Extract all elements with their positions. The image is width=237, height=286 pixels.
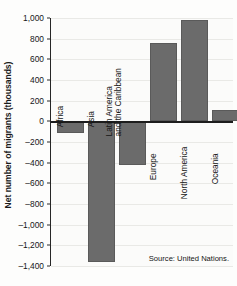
gridline-1000 xyxy=(51,18,233,19)
zero-baseline xyxy=(51,121,233,123)
category-label-europe: Europe xyxy=(149,153,158,180)
gridline-minus-1400 xyxy=(51,266,233,267)
y-tick-200: 200 xyxy=(30,96,44,106)
migration-bar-chart: Net number of migrants (thousands) 1,000… xyxy=(0,0,237,286)
y-tick-minus-800: –800 xyxy=(25,199,44,209)
category-label-north-america: North America xyxy=(180,147,189,200)
y-tick-400: 400 xyxy=(30,75,44,85)
bar-asia xyxy=(88,121,115,262)
category-label-asia: Asia xyxy=(87,111,96,127)
category-label-latin-america-and-the-caribbean: Latin America and the Caribbean xyxy=(105,62,123,136)
gridline-minus-800 xyxy=(51,204,233,205)
y-tick-0: 0 xyxy=(39,116,44,126)
y-axis-tick-labels: 1,000 800 600 400 200 0 –200 –400 –600 –… xyxy=(14,0,47,286)
gridline-minus-600 xyxy=(51,183,233,184)
y-tick-600: 600 xyxy=(30,54,44,64)
bar-north-america xyxy=(181,20,208,121)
y-tick-minus-400: –400 xyxy=(25,158,44,168)
y-axis-title-text: Net number of migrants (thousands) xyxy=(3,62,13,209)
y-tick-minus-200: –200 xyxy=(25,137,44,147)
y-tick-minus-1400: –1,400 xyxy=(18,261,44,271)
y-tick-1000: 1,000 xyxy=(23,13,44,23)
y-tick-minus-1000: –1,000 xyxy=(18,220,44,230)
y-tick-minus-1200: –1,200 xyxy=(18,240,44,250)
category-label-oceania: Oceania xyxy=(211,153,220,184)
bar-latin-america-and-the-caribbean xyxy=(119,121,146,164)
y-tick-800: 800 xyxy=(30,34,44,44)
gridline-minus-1200 xyxy=(51,245,233,246)
y-tick-minus-600: –600 xyxy=(25,178,44,188)
category-label-africa: Africa xyxy=(56,106,65,127)
gridline-minus-1000 xyxy=(51,225,233,226)
source-note: Source: United Nations. xyxy=(149,254,229,263)
latin-america-line-2: and the Caribbean xyxy=(114,62,123,136)
bar-europe xyxy=(150,43,177,122)
plot-area: Africa Asia Latin America and the Caribb… xyxy=(50,18,233,266)
bar-oceania xyxy=(212,110,237,121)
